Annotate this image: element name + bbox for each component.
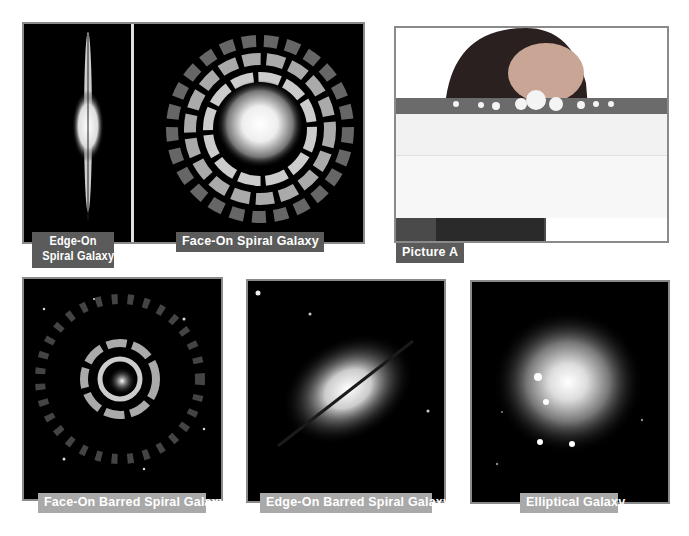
face-on-barred-spiral-label: Face-On Barred Spiral Galaxy [38, 493, 206, 513]
edge-on-spiral-label: Edge-On Spiral Galaxy [32, 232, 114, 268]
face-on-spiral-galaxy-image [172, 41, 348, 217]
picture-a-panel [394, 26, 669, 243]
edge-on-spiral-galaxy-image [72, 32, 104, 220]
spiral-galaxy-images [24, 24, 363, 242]
edge-on-barred-spiral-image [248, 281, 444, 501]
elliptical-galaxy-image [472, 282, 668, 502]
label-line-1: Edge-On [42, 234, 104, 249]
edge-on-barred-spiral-label: Edge-On Barred Spiral Galaxy [260, 493, 432, 513]
spiral-galaxy-panel [22, 22, 365, 244]
face-on-spiral-label: Face-On Spiral Galaxy [176, 232, 324, 252]
elliptical-galaxy-panel [470, 280, 670, 504]
picture-a-image [396, 28, 667, 241]
edge-on-barred-spiral-panel [246, 279, 446, 503]
elliptical-galaxy-label: Elliptical Galaxy [520, 493, 618, 513]
face-on-barred-spiral-panel [22, 277, 223, 501]
picture-a-label: Picture A [396, 243, 464, 263]
face-on-barred-spiral-image [24, 279, 221, 499]
label-line-2: Spiral Galaxy [42, 249, 104, 264]
